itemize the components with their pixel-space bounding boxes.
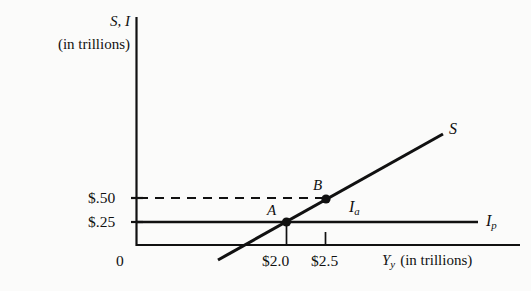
planned-investment-curve-label: Ip [486, 213, 497, 231]
y-tick-label-050: $.50 [88, 190, 115, 206]
point-b-marker [321, 194, 330, 203]
x-axis-title: Yy(in trillions) [382, 252, 472, 270]
point-a-label: A [267, 203, 276, 218]
x-axis-units: (in trillions) [400, 252, 472, 268]
saving-curve-label: S [449, 121, 457, 137]
x-tick-label-2-0: $2.0 [262, 253, 289, 269]
y-axis-title: S, I [62, 14, 130, 29]
x-tick-label-2-5: $2.5 [311, 253, 338, 269]
x-axis-title-subscript: y [390, 258, 395, 270]
point-b-label: B [313, 178, 322, 193]
origin-label: 0 [116, 253, 124, 269]
economics-figure: S, I (in trillions) $.50 $.25 0 $2.0 $2.… [0, 0, 531, 291]
point-a-marker [282, 217, 291, 226]
actual-investment-label: Ia [349, 199, 360, 217]
actual-investment-subscript: a [354, 205, 359, 217]
y-axis-units: (in trillions) [10, 37, 130, 52]
y-tick-label-025: $.25 [88, 214, 115, 230]
planned-investment-subscript: p [491, 219, 496, 231]
